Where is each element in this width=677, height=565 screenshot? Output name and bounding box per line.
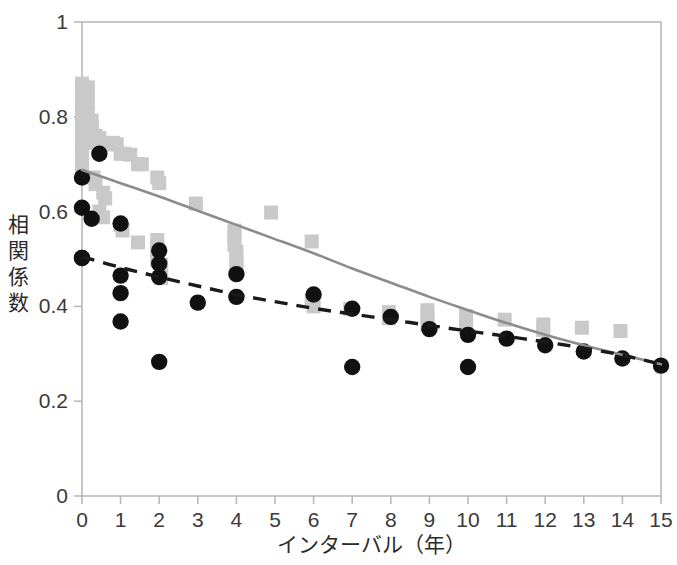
data-point-square <box>305 234 319 248</box>
data-point-circle <box>460 359 476 375</box>
y-axis-title-char: 係 <box>8 265 29 289</box>
y-tick-label-1: 1 <box>56 10 68 33</box>
x-tick-label-14: 14 <box>611 508 635 531</box>
x-tick-label-2: 2 <box>153 508 165 531</box>
data-point-circle <box>344 359 360 375</box>
x-tick-label-12: 12 <box>534 508 557 531</box>
y-axis-title-char: 関 <box>8 239 29 263</box>
correlation-scatter-plot: 00.20.40.60.81 0123456789101112131415 イン… <box>0 0 677 565</box>
y-tick-label-0.4: 0.4 <box>39 294 69 317</box>
data-point-circle <box>421 321 437 337</box>
data-point-square <box>131 235 145 249</box>
x-tick-label-4: 4 <box>231 508 243 531</box>
data-point-circle <box>112 215 128 231</box>
data-point-square <box>264 206 278 220</box>
y-axis-title-char: 相 <box>8 213 29 237</box>
data-point-square <box>613 324 627 338</box>
data-point-circle <box>112 285 128 301</box>
data-point-square <box>575 321 589 335</box>
y-tick-label-0: 0 <box>56 484 68 507</box>
x-tick-label-13: 13 <box>572 508 595 531</box>
x-axis-ticks <box>82 496 661 504</box>
x-axis-tick-labels: 0123456789101112131415 <box>76 508 673 531</box>
x-axis-title: インターバル（年） <box>277 533 466 557</box>
data-point-square <box>152 176 166 190</box>
data-point-circle <box>228 266 244 282</box>
x-tick-label-3: 3 <box>192 508 204 531</box>
data-point-circle <box>83 211 99 227</box>
data-point-circle <box>190 294 206 310</box>
plot-frame <box>82 22 661 496</box>
x-tick-label-9: 9 <box>424 508 436 531</box>
data-point-circle <box>91 146 107 162</box>
y-axis-title-char: 数 <box>8 291 29 315</box>
y-tick-label-0.6: 0.6 <box>39 200 68 223</box>
y-tick-label-0.2: 0.2 <box>39 389 68 412</box>
x-tick-label-6: 6 <box>308 508 320 531</box>
data-point-circle <box>151 354 167 370</box>
gray-square-data-points <box>75 77 627 338</box>
x-tick-label-5: 5 <box>269 508 281 531</box>
gray-solid-trendline <box>82 170 661 364</box>
data-point-circle <box>383 309 399 325</box>
x-tick-label-1: 1 <box>115 508 127 531</box>
x-tick-label-15: 15 <box>649 508 672 531</box>
data-point-circle <box>498 330 514 346</box>
x-tick-label-0: 0 <box>76 508 88 531</box>
y-axis-tick-labels: 00.20.40.60.81 <box>39 10 69 507</box>
x-tick-label-11: 11 <box>496 508 518 531</box>
x-tick-label-7: 7 <box>346 508 358 531</box>
data-point-square <box>98 191 112 205</box>
black-dashed-trendline <box>82 257 661 365</box>
data-point-square <box>135 157 149 171</box>
data-point-circle <box>305 286 321 302</box>
y-tick-label-0.8: 0.8 <box>39 105 68 128</box>
chart-figure: 00.20.40.60.81 0123456789101112131415 イン… <box>0 0 677 565</box>
data-point-circle <box>653 357 669 373</box>
y-axis-title: 相関係数 <box>8 213 29 315</box>
x-tick-label-8: 8 <box>385 508 397 531</box>
data-point-circle <box>460 327 476 343</box>
data-point-circle <box>112 313 128 329</box>
x-tick-label-10: 10 <box>456 508 479 531</box>
